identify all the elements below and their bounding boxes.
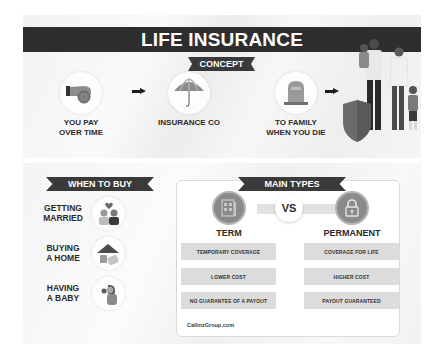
mother-baby-icon [96, 282, 122, 306]
calendar-document-icon [220, 198, 238, 218]
term-icon-badge [212, 191, 246, 225]
buy-circle [92, 237, 125, 270]
step-to-family: TO FAMILY WHEN YOU DIE [261, 72, 331, 138]
arrow-icon [325, 88, 339, 94]
umbrella-icon [172, 77, 206, 109]
page-title: LIFE INSURANCE [141, 29, 303, 51]
buy-circle [92, 197, 125, 230]
permanent-feature: HIGHER COST [304, 268, 399, 285]
buy-item-label: BUYING A HOME [43, 244, 83, 263]
buy-circle [92, 277, 125, 310]
buy-item-label: GETTING MARRIED [43, 204, 83, 223]
house-icon [96, 242, 122, 266]
step-circle [60, 72, 102, 114]
concept-panel: LIFE INSURANCE CONCEPT YOU PAY OVER TIME [23, 15, 421, 158]
term-feature: NO GUARANTEE OF A PAYOUT [181, 292, 276, 309]
permanent-icon-badge [335, 191, 369, 225]
when-to-buy-ribbon: WHEN TO BUY [46, 177, 154, 191]
when-to-buy-label: WHEN TO BUY [68, 179, 132, 189]
concept-ribbon: CONCEPT [188, 57, 255, 71]
arrow-icon [132, 88, 146, 94]
step-label: INSURANCE CO [153, 118, 225, 128]
permanent-title: PERMANENT [302, 228, 402, 238]
step-label: YOU PAY OVER TIME [51, 118, 111, 138]
vs-badge: VS [275, 194, 303, 222]
term-feature: LOWER COST [181, 268, 276, 285]
permanent-feature: PAYOUT GUARANTEED [304, 292, 399, 309]
buy-item-home: BUYING A HOME [43, 237, 125, 270]
permanent-feature: COVERAGE FOR LIFE [304, 243, 399, 260]
term-title: TERM [179, 228, 279, 238]
step-label: TO FAMILY WHEN YOU DIE [261, 118, 331, 138]
buy-item-baby: HAVING A BABY [43, 277, 125, 310]
main-types-ribbon: MAIN TYPES [238, 177, 346, 191]
couple-icon [96, 202, 122, 226]
buy-item-label: HAVING A BABY [43, 284, 83, 303]
source-credit: CallinzGroup.com [187, 322, 234, 328]
tombstone-icon [281, 79, 311, 107]
step-circle [275, 72, 317, 114]
buy-item-married: GETTING MARRIED [43, 197, 125, 230]
infographic: LIFE INSURANCE CONCEPT YOU PAY OVER TIME [23, 15, 421, 344]
step-insurance-co: INSURANCE CO [153, 72, 225, 128]
main-types-card: VS TERM PERMANENT TEMPORARY COVERAGE LOW… [176, 180, 400, 337]
main-types-label: MAIN TYPES [264, 179, 319, 189]
lock-icon [343, 198, 361, 218]
hand-coin-icon [65, 81, 97, 105]
concept-ribbon-label: CONCEPT [199, 59, 243, 69]
term-feature: TEMPORARY COVERAGE [181, 243, 276, 260]
step-circle [168, 72, 210, 114]
family-shield-icon [341, 38, 425, 156]
step-you-pay: YOU PAY OVER TIME [51, 72, 111, 138]
details-panel: WHEN TO BUY GETTING MARRIED BUYING A H [23, 163, 421, 344]
